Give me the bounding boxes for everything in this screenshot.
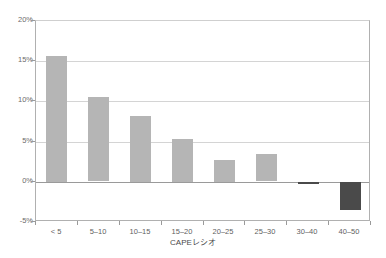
bar [340,182,361,210]
chart-title [84,1,284,10]
x-tick-mark [370,221,371,225]
x-tick-label: 15–20 [172,227,193,236]
bar [214,160,235,182]
x-tick-mark [203,221,204,225]
x-tick-mark [161,221,162,225]
x-tick-label: 30–40 [297,227,318,236]
x-tick-mark [244,221,245,225]
cape-ratio-bar-chart: 20%15%10%5%0%-5% < 55–1010–1515–2020–252… [0,0,386,258]
x-tick-mark [77,221,78,225]
y-tick-label: 10% [5,96,33,104]
y-axis: 20%15%10%5%0%-5% [0,20,33,221]
y-tick-label: 15% [5,56,33,64]
x-tick-label: 25–30 [255,227,276,236]
x-tick-mark [328,221,329,225]
x-tick-mark [286,221,287,225]
y-tick-label: 0% [5,177,33,185]
bar [88,97,109,181]
x-axis-title: CAPEレシオ [0,238,386,248]
x-tick-mark [119,221,120,225]
x-tick-label: 40–50 [339,227,360,236]
x-tick-label: 20–25 [213,227,234,236]
x-tick-label: < 5 [51,227,62,236]
y-tick-label: 20% [5,16,33,24]
x-tick-mark [35,221,36,225]
bar [46,56,67,182]
bar [172,139,193,182]
x-tick-label: 5–10 [90,227,107,236]
x-tick-label: 10–15 [130,227,151,236]
bar [256,154,277,181]
y-tick-label: 5% [5,137,33,145]
bar-series [36,21,369,220]
bar [130,116,151,182]
bar [298,182,319,184]
plot-area [35,20,370,221]
y-tick-label: -5% [5,217,33,225]
